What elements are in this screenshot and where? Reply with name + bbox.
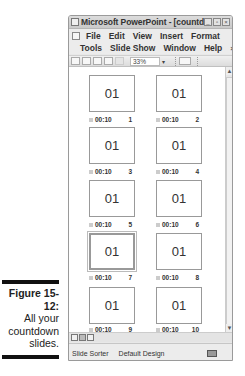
slide-thumbnail[interactable]: 01 xyxy=(89,127,135,164)
menu-format[interactable]: Format xyxy=(191,31,220,41)
menu-view[interactable]: View xyxy=(133,31,152,41)
slide-number: 4 xyxy=(195,168,199,175)
caption-line: All your xyxy=(0,312,59,325)
status-view: Slide Sorter xyxy=(72,350,109,357)
slide-thumbnail-selected[interactable]: 01 xyxy=(89,233,135,270)
standard-toolbar: 33% ▾ xyxy=(69,55,232,67)
slide-timing: 00:10 xyxy=(95,221,112,228)
slide-meta: 00:107 xyxy=(89,274,135,281)
slide-thumbnail[interactable]: 01 xyxy=(89,287,135,324)
slide-thumbnail[interactable]: 01 xyxy=(156,287,202,324)
status-design: Default Design xyxy=(119,350,165,357)
slide-timing: 00:10 xyxy=(162,168,179,175)
slide-number: 2 xyxy=(195,116,199,123)
powerpoint-app-icon[interactable] xyxy=(71,18,79,26)
slide-thumbnail[interactable]: 01 xyxy=(156,75,202,112)
transition-icon xyxy=(89,276,93,280)
slide-thumbnail[interactable]: 01 xyxy=(156,180,202,217)
transition-icon xyxy=(89,118,93,122)
slide-meta: 00:104 xyxy=(156,168,202,175)
toolbar-options[interactable] xyxy=(197,57,201,66)
slide-timing: 00:10 xyxy=(95,274,112,281)
menu-insert[interactable]: Insert xyxy=(160,31,183,41)
document-close-icon[interactable]: × xyxy=(230,44,233,53)
restore-button[interactable]: ▫ xyxy=(213,18,221,26)
slide-thumbnail[interactable]: 01 xyxy=(89,180,135,217)
zoom-dropdown[interactable]: 33% xyxy=(130,57,160,66)
slide-meta: 00:108 xyxy=(156,274,202,281)
slide-timing: 00:10 xyxy=(95,116,112,123)
view-buttons-bar xyxy=(69,332,233,342)
slide-meta: 00:101 xyxy=(89,116,135,123)
disabled-tool-icon[interactable] xyxy=(115,57,124,65)
menu-tools[interactable]: Tools xyxy=(80,43,102,53)
slide-sorter-view-icon[interactable] xyxy=(79,334,86,341)
slide-thumbnail[interactable]: 01 xyxy=(89,75,135,112)
figure-caption: Figure 15-12: All your countdown slides. xyxy=(0,287,59,350)
slide-timing: 00:10 xyxy=(162,221,179,228)
transition-icon xyxy=(156,276,160,280)
menu-window[interactable]: Window xyxy=(163,43,196,53)
slide-timing: 00:10 xyxy=(162,274,179,281)
print-preview-icon[interactable] xyxy=(104,57,113,65)
slide-meta: 00:105 xyxy=(89,221,135,228)
slide-number: 5 xyxy=(128,221,132,228)
spelling-status-icon[interactable] xyxy=(207,350,217,357)
slide-meta: 00:103 xyxy=(89,168,135,175)
slide-meta: 00:106 xyxy=(156,221,202,228)
transition-icon xyxy=(89,223,93,227)
caption-line: slides. xyxy=(0,337,59,350)
slide-number: 7 xyxy=(128,274,132,281)
normal-view-icon[interactable] xyxy=(71,334,78,341)
window-title: Microsoft PowerPoint - [countdow... xyxy=(81,17,204,27)
slide-number: 3 xyxy=(128,168,132,175)
caption-line: countdown xyxy=(0,325,59,338)
slide-design-icon[interactable] xyxy=(179,57,191,65)
slide-thumbnail[interactable]: 01 xyxy=(156,233,202,270)
transition-icon xyxy=(156,328,160,332)
document-icon[interactable] xyxy=(72,32,80,40)
scroll-down-icon[interactable]: ▼ xyxy=(226,324,233,332)
slide-number: 6 xyxy=(195,221,199,228)
menu-slide-show[interactable]: Slide Show xyxy=(110,43,155,53)
scroll-up-icon[interactable]: ▲ xyxy=(226,67,233,75)
save-icon[interactable] xyxy=(93,57,102,65)
menu-bar: File Edit View Insert Format Tools Slide… xyxy=(69,29,232,54)
new-icon[interactable] xyxy=(71,57,80,65)
menu-file[interactable]: File xyxy=(86,31,101,41)
chevron-down-icon[interactable]: ▾ xyxy=(162,58,165,65)
minimize-button[interactable]: _ xyxy=(204,18,212,26)
open-icon[interactable] xyxy=(82,57,91,65)
close-button[interactable]: × xyxy=(222,18,230,26)
slide-number: 1 xyxy=(128,116,132,123)
menu-edit[interactable]: Edit xyxy=(109,31,125,41)
menu-help[interactable]: Help xyxy=(204,43,222,53)
status-bar: Slide Sorter Default Design xyxy=(69,343,233,361)
caption-bottom-rule xyxy=(2,355,59,359)
slide-meta: 00:102 xyxy=(156,116,202,123)
slide-timing: 00:10 xyxy=(162,116,179,123)
transition-icon xyxy=(156,118,160,122)
transition-icon xyxy=(156,170,160,174)
caption-top-rule xyxy=(2,280,59,284)
slide-thumbnail[interactable]: 01 xyxy=(156,127,202,164)
powerpoint-window: Microsoft PowerPoint - [countdow... _ ▫ … xyxy=(68,15,233,361)
scroll-thumb[interactable] xyxy=(226,77,233,325)
vertical-scrollbar[interactable]: ▲ ▼ xyxy=(225,67,233,332)
slide-number: 8 xyxy=(195,274,199,281)
slide-show-view-icon[interactable] xyxy=(87,334,94,341)
transition-icon xyxy=(89,328,93,332)
slide-sorter-pane: 01 00:101 01 00:102 01 00:103 01 00:104 … xyxy=(69,67,225,332)
title-bar[interactable]: Microsoft PowerPoint - [countdow... _ ▫ … xyxy=(69,16,232,29)
transition-icon xyxy=(156,223,160,227)
transition-icon xyxy=(89,170,93,174)
slide-timing: 00:10 xyxy=(95,168,112,175)
figure-label: Figure 15-12: xyxy=(0,287,59,312)
